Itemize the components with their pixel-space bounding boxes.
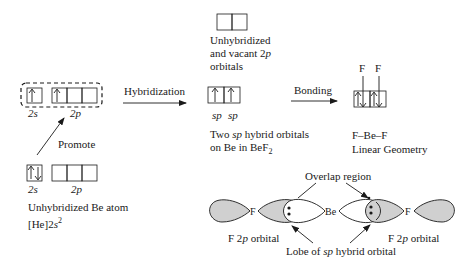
overlap-pointer-left	[298, 183, 316, 198]
vacant-2p-boxes	[217, 14, 247, 30]
geometry-label: Linear Geometry	[352, 143, 427, 156]
lobe-pointer-left	[292, 226, 313, 243]
ground-state-caption-line1: Unhybridized Be atom	[28, 201, 128, 214]
sp-caption-sp: sp	[232, 128, 242, 140]
vacant-p-line2-p: p	[266, 47, 272, 59]
lobe-label-suffix: hybrid orbital	[333, 245, 396, 257]
sp-hybrid-boxes	[208, 87, 240, 103]
left-f2p-prefix: F 2	[228, 232, 242, 244]
left-f-atom-label: F	[250, 205, 256, 218]
ground-2p-boxes	[52, 165, 97, 181]
ground-2p-label: 2p	[71, 183, 82, 196]
ground-2s-box	[27, 165, 42, 181]
excited-2p-label: 2p	[70, 107, 81, 120]
lobe-pointer-right	[350, 225, 370, 243]
electron-config-prefix: [He]2	[28, 218, 54, 230]
right-f2p-suffix: orbital	[408, 232, 439, 244]
vacant-p-caption-line3: orbitals	[210, 60, 243, 73]
hybridization-label: Hybridization	[124, 85, 185, 98]
sp-caption-sub: 2	[268, 147, 272, 156]
bonding-label: Bonding	[294, 84, 332, 97]
bonded-boxes	[354, 76, 386, 107]
bonded-f-label-1: F	[359, 62, 365, 75]
lobe-label-prefix: Lobe of	[286, 245, 323, 257]
sp-caption-suffix: hybrid orbitals	[242, 128, 309, 140]
sp-caption-line2: on Be in BeF2	[210, 141, 272, 158]
sp-caption-line2-prefix: on Be in BeF	[210, 141, 268, 153]
ground-2s-label: 2s	[28, 183, 38, 196]
formula-label: F–Be–F	[352, 129, 387, 142]
overlap-region-label: Overlap region	[305, 170, 371, 183]
left-f2p-suffix: orbital	[248, 232, 279, 244]
sp-label-1: sp	[212, 109, 222, 122]
be-atom-label: Be	[325, 205, 336, 218]
excited-state-dashed-box	[21, 83, 102, 107]
right-f-atom-label: F	[405, 205, 411, 218]
excited-2s-box	[27, 88, 42, 103]
lobe-label-sp: sp	[323, 245, 333, 257]
excited-2p-boxes	[52, 88, 97, 103]
right-f-outer-lobe	[414, 200, 454, 222]
right-f2p-label: F 2p orbital	[388, 232, 439, 245]
sp-caption-prefix: Two	[210, 128, 232, 140]
right-f-inner-lobe	[366, 200, 405, 223]
vacant-p-line2-prefix: and vacant 2	[210, 47, 266, 59]
left-f-outer-lobe	[210, 200, 250, 222]
electron-config-sup: 2	[58, 216, 62, 225]
excited-2s-label: 2s	[28, 107, 38, 120]
bonded-f-label-2: F	[375, 62, 381, 75]
vacant-p-caption-line1: Unhybridized	[210, 34, 270, 47]
left-sp-lobe	[284, 199, 326, 222]
left-f2p-label: F 2p orbital	[228, 232, 279, 245]
vacant-p-caption-line2: and vacant 2p	[210, 47, 271, 60]
sp-caption-line1: Two sp hybrid orbitals	[210, 128, 309, 141]
right-f2p-prefix: F 2	[388, 232, 402, 244]
overlap-pointer-right	[346, 183, 368, 198]
ground-state-caption-line2: [He]2s2	[28, 214, 62, 231]
sp-label-2: sp	[228, 109, 238, 122]
lobe-label: Lobe of sp hybrid orbital	[286, 245, 396, 258]
promote-label: Promote	[58, 138, 95, 151]
